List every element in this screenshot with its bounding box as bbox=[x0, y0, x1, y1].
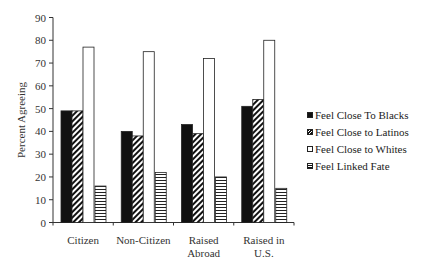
bar-feel-close-to-blacks bbox=[121, 131, 132, 222]
legend-item: Feel Linked Fate bbox=[307, 157, 409, 174]
y-tick-label: 20 bbox=[35, 171, 47, 183]
bar-feel-close-to-whites bbox=[143, 52, 154, 223]
y-tick-label: 30 bbox=[35, 148, 47, 160]
bar-feel-close-to-latinos bbox=[132, 136, 143, 223]
bar-feel-close-to-whites bbox=[204, 59, 215, 223]
legend-swatch-icon bbox=[307, 146, 313, 152]
legend-label: Feel Linked Fate bbox=[315, 160, 390, 172]
category-label: Non-Citizen bbox=[116, 234, 171, 246]
y-axis-label: Percent Agreeing bbox=[15, 81, 27, 158]
y-tick-label: 60 bbox=[35, 80, 47, 92]
bar-feel-close-to-blacks bbox=[182, 125, 193, 223]
legend-swatch-icon bbox=[307, 163, 313, 169]
bars bbox=[61, 40, 287, 222]
y-axis: 0102030405060708090 bbox=[35, 12, 53, 229]
legend-swatch-icon bbox=[307, 129, 313, 135]
bar-feel-close-to-latinos bbox=[72, 111, 83, 223]
bar-feel-linked-fate bbox=[216, 177, 227, 223]
bar-feel-close-to-whites bbox=[83, 47, 94, 222]
y-tick-label: 70 bbox=[35, 57, 47, 69]
y-tick-label: 40 bbox=[35, 125, 47, 137]
legend-label: Feel Close to Latinos bbox=[315, 126, 409, 138]
legend-label: Feel Close to Whites bbox=[315, 143, 407, 155]
y-tick-label: 50 bbox=[35, 103, 47, 115]
legend-swatch-icon bbox=[307, 112, 313, 118]
y-tick-label: 0 bbox=[41, 217, 47, 229]
y-tick-label: 10 bbox=[35, 194, 47, 206]
bar-feel-close-to-blacks bbox=[61, 111, 72, 223]
bar-feel-linked-fate bbox=[95, 186, 106, 222]
bar-feel-close-to-latinos bbox=[193, 134, 204, 223]
legend-item: Feel Close To Blacks bbox=[307, 106, 409, 123]
category-label: Raised inU.S. bbox=[243, 234, 285, 259]
category-label: RaisedAbroad bbox=[187, 234, 220, 259]
legend: Feel Close To BlacksFeel Close to Latino… bbox=[307, 106, 409, 174]
bar-feel-close-to-latinos bbox=[253, 100, 264, 223]
category-label: Citizen bbox=[67, 234, 99, 246]
y-tick-label: 90 bbox=[35, 12, 47, 24]
bar-feel-close-to-whites bbox=[264, 40, 275, 222]
bar-feel-linked-fate bbox=[155, 172, 166, 222]
x-axis: CitizenNon-CitizenRaisedAbroadRaised inU… bbox=[53, 223, 294, 260]
y-tick-label: 80 bbox=[35, 34, 47, 46]
bar-feel-close-to-blacks bbox=[242, 106, 253, 222]
bar-feel-linked-fate bbox=[276, 188, 287, 222]
legend-item: Feel Close to Latinos bbox=[307, 123, 409, 140]
legend-label: Feel Close To Blacks bbox=[315, 109, 408, 121]
legend-item: Feel Close to Whites bbox=[307, 140, 409, 157]
